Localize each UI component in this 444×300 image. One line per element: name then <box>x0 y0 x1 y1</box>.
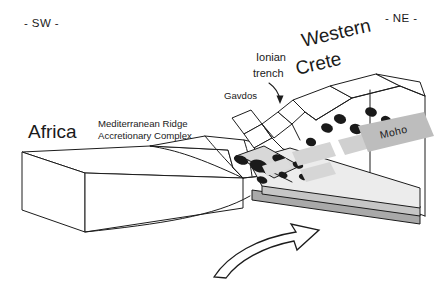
ionian-label-line1: Ionian <box>256 51 286 63</box>
africa-label: Africa <box>28 121 77 142</box>
orientation-label-sw: - SW - <box>24 17 59 29</box>
ridge-label-line2: Accretionary Complex <box>98 130 192 141</box>
gavdos-label: Gavdos <box>224 90 257 101</box>
block-diagram-figure: Moho - SW - - NE - Africa Mediterranean … <box>0 0 444 300</box>
orientation-label-ne: - NE - <box>385 12 417 24</box>
geology-block-diagram-svg: Moho - SW - - NE - Africa Mediterranean … <box>0 0 444 300</box>
ionian-label-line2: trench <box>253 67 284 79</box>
ridge-label-line1: Mediterranean Ridge <box>98 118 188 129</box>
